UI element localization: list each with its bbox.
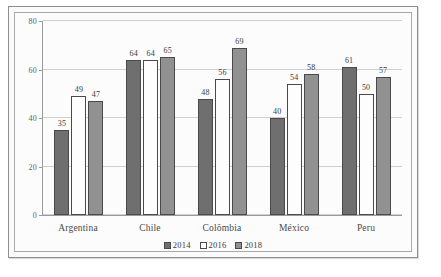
- bar-value-label: 58: [307, 63, 315, 72]
- bar-column: 56: [215, 21, 230, 215]
- bar-group: 485669: [187, 21, 259, 215]
- legend-item-label: 2014: [173, 240, 191, 250]
- bar-group: 354947: [43, 21, 115, 215]
- bar-value-label: 49: [75, 85, 83, 94]
- bar[interactable]: [143, 60, 158, 215]
- bar-column: 35: [54, 21, 69, 215]
- bar-value-label: 47: [92, 90, 100, 99]
- legend-item-2014[interactable]: 2014: [164, 240, 191, 250]
- category-axis-label: Chile: [114, 220, 186, 236]
- bar-value-label: 35: [58, 119, 66, 128]
- bar-column: 47: [88, 21, 103, 215]
- y-axis-tick-label: 40: [29, 114, 37, 123]
- bar-group: 405458: [258, 21, 330, 215]
- bar-value-label: 69: [235, 37, 243, 46]
- bar-value-label: 64: [146, 49, 154, 58]
- bar[interactable]: [270, 118, 285, 215]
- bar[interactable]: [215, 79, 230, 215]
- bar-value-label: 57: [379, 66, 387, 75]
- bar-column: 50: [359, 21, 374, 215]
- bar[interactable]: [287, 84, 302, 215]
- bar-value-label: 50: [362, 83, 370, 92]
- bar[interactable]: [232, 48, 247, 215]
- bar-column: 48: [198, 21, 213, 215]
- category-axis-label: Peru: [330, 220, 402, 236]
- legend-swatch-icon: [235, 242, 242, 249]
- bar[interactable]: [160, 57, 175, 215]
- bar[interactable]: [342, 67, 357, 215]
- plot-area: 020406080 354947646465485669405458615057: [42, 21, 402, 216]
- category-axis-label: México: [258, 220, 330, 236]
- bar-column: 65: [160, 21, 175, 215]
- bar-value-label: 54: [290, 73, 298, 82]
- bar-value-label: 40: [273, 107, 281, 116]
- y-axis-tick-label: 20: [29, 162, 37, 171]
- legend-item-2018[interactable]: 2018: [235, 240, 262, 250]
- bar-column: 57: [376, 21, 391, 215]
- bar-value-label: 64: [129, 49, 137, 58]
- bar[interactable]: [71, 96, 86, 215]
- bar-groups: 354947646465485669405458615057: [43, 21, 402, 215]
- bar[interactable]: [304, 74, 319, 215]
- bar[interactable]: [198, 99, 213, 215]
- bar[interactable]: [54, 130, 69, 215]
- bar-column: 58: [304, 21, 319, 215]
- bar-column: 40: [270, 21, 285, 215]
- bar-value-label: 65: [163, 46, 171, 55]
- category-axis-label: Colômbia: [186, 220, 258, 236]
- legend-item-label: 2018: [244, 240, 262, 250]
- bar-value-label: 61: [345, 56, 353, 65]
- bar[interactable]: [359, 94, 374, 215]
- bar[interactable]: [376, 77, 391, 215]
- legend-swatch-icon: [164, 242, 171, 249]
- bar-value-label: 56: [218, 68, 226, 77]
- bar-column: 49: [71, 21, 86, 215]
- bar-column: 54: [287, 21, 302, 215]
- chart-legend: 201420162018: [15, 240, 411, 250]
- chart-frame: 020406080 354947646465485669405458615057…: [8, 6, 418, 258]
- y-axis-tick-mark: [39, 215, 43, 216]
- category-axis-label: Argentina: [42, 220, 114, 236]
- bar-column: 61: [342, 21, 357, 215]
- y-axis-tick-label: 0: [33, 211, 37, 220]
- bar-group: 615057: [330, 21, 402, 215]
- bar-column: 69: [232, 21, 247, 215]
- bar[interactable]: [126, 60, 141, 215]
- y-axis-tick-label: 80: [29, 17, 37, 26]
- legend-swatch-icon: [200, 242, 207, 249]
- legend-item-label: 2016: [209, 240, 227, 250]
- bar-column: 64: [126, 21, 141, 215]
- chart-inner-border: 020406080 354947646465485669405458615057…: [14, 12, 412, 252]
- bar-column: 64: [143, 21, 158, 215]
- bar[interactable]: [88, 101, 103, 215]
- y-axis-tick-label: 60: [29, 65, 37, 74]
- category-axis: ArgentinaChileColômbiaMéxicoPeru: [42, 220, 402, 236]
- legend-item-2016[interactable]: 2016: [200, 240, 227, 250]
- bar-value-label: 48: [201, 88, 209, 97]
- bar-group: 646465: [115, 21, 187, 215]
